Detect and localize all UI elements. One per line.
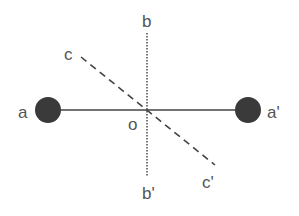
label-b-prime: b' bbox=[142, 184, 155, 203]
label-a: a bbox=[18, 103, 28, 122]
label-c: c bbox=[64, 45, 73, 64]
atom-a-prime bbox=[235, 97, 261, 123]
label-o: o bbox=[128, 115, 137, 134]
molecule-symmetry-diagram: a a' b b' c c' o bbox=[0, 0, 299, 216]
atom-a bbox=[35, 97, 61, 123]
label-b: b bbox=[142, 12, 151, 31]
label-c-prime: c' bbox=[202, 173, 214, 192]
axis-c-c-prime bbox=[81, 57, 215, 165]
label-a-prime: a' bbox=[267, 103, 280, 122]
